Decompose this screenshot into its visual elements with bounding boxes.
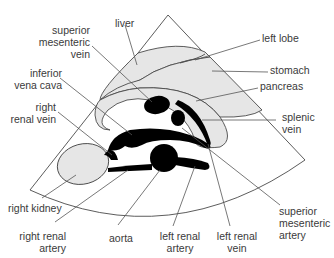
label-superior-mesenteric-vein: superior mesenteric vein xyxy=(10,24,90,60)
label-splenic-vein: splenic vein xyxy=(282,111,315,135)
aorta-shape xyxy=(150,144,178,172)
label-left-renal-vein: left renal vein xyxy=(207,230,267,254)
label-left-renal-artery: left renal artery xyxy=(150,230,210,254)
label-superior-mesenteric-artery: superior mesenteric artery xyxy=(279,205,330,241)
label-liver: liver xyxy=(115,17,134,29)
label-inferior-vena-cava: inferior vena cava xyxy=(0,67,62,91)
superior-mesenteric-artery-shape xyxy=(171,110,185,126)
label-pancreas: pancreas xyxy=(260,80,303,92)
label-right-kidney: right kidney xyxy=(8,202,62,214)
label-aorta: aorta xyxy=(96,232,146,244)
label-left-lobe: left lobe xyxy=(262,32,299,44)
label-stomach: stomach xyxy=(270,64,310,76)
label-right-renal-vein: right renal vein xyxy=(0,101,56,125)
label-right-renal-artery: right renal artery xyxy=(0,230,66,254)
